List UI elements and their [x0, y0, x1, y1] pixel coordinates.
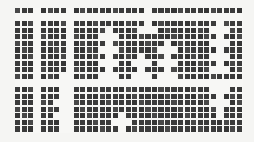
matrix-cell — [41, 28, 46, 33]
matrix-cell — [217, 8, 222, 13]
matrix-cell — [74, 100, 79, 105]
matrix-cell — [171, 34, 176, 39]
matrix-cell — [28, 41, 33, 46]
matrix-cell — [113, 28, 118, 33]
matrix-cell — [171, 100, 176, 105]
matrix-cell — [93, 8, 98, 13]
matrix-cell — [87, 94, 92, 99]
matrix-cell — [198, 34, 203, 39]
matrix-cell — [119, 74, 124, 79]
matrix-cell — [22, 100, 27, 105]
matrix-cell — [230, 94, 235, 99]
matrix-cell — [126, 67, 131, 72]
matrix-cell — [87, 113, 92, 118]
matrix-cell — [113, 54, 118, 59]
matrix-cell — [48, 8, 53, 13]
matrix-cell — [48, 120, 53, 125]
matrix-cell — [230, 100, 235, 105]
matrix-cell — [211, 21, 216, 26]
matrix-cell — [126, 41, 131, 46]
matrix-cell — [61, 34, 66, 39]
matrix-cell — [204, 94, 209, 99]
matrix-cell — [54, 28, 59, 33]
matrix-cell — [87, 100, 92, 105]
matrix-cell — [28, 100, 33, 105]
matrix-cell — [165, 87, 170, 92]
matrix-cell — [113, 100, 118, 105]
matrix-cell — [87, 107, 92, 112]
matrix-cell — [178, 126, 183, 131]
matrix-cell — [185, 61, 190, 66]
matrix-cell — [106, 21, 111, 26]
matrix-cell — [87, 34, 92, 39]
matrix-cell — [165, 120, 170, 125]
matrix-cell — [15, 54, 20, 59]
matrix-cell — [15, 107, 20, 112]
matrix-cell — [113, 87, 118, 92]
matrix-cell — [145, 34, 150, 39]
matrix-cell — [158, 8, 163, 13]
matrix-cell — [15, 21, 20, 26]
matrix-cell — [165, 107, 170, 112]
matrix-cell — [54, 67, 59, 72]
matrix-cell — [106, 126, 111, 131]
matrix-cell — [230, 54, 235, 59]
matrix-cell — [87, 61, 92, 66]
matrix-cell — [211, 126, 216, 131]
matrix-cell — [204, 34, 209, 39]
matrix-cell — [158, 67, 163, 72]
matrix-cell — [28, 61, 33, 66]
matrix-cell — [106, 87, 111, 92]
matrix-cell — [87, 67, 92, 72]
matrix-cell — [165, 113, 170, 118]
matrix-cell — [237, 107, 242, 112]
matrix-cell — [54, 21, 59, 26]
matrix-cell — [185, 8, 190, 13]
matrix-cell — [217, 120, 222, 125]
matrix-cell — [100, 21, 105, 26]
matrix-cell — [139, 47, 144, 52]
matrix-cell — [74, 41, 79, 46]
matrix-cell — [224, 107, 229, 112]
matrix-cell — [22, 126, 27, 131]
matrix-cell — [237, 74, 242, 79]
matrix-cell — [100, 113, 105, 118]
matrix-cell — [230, 74, 235, 79]
matrix-cell — [185, 120, 190, 125]
matrix-cell — [15, 113, 20, 118]
matrix-cell — [28, 8, 33, 13]
matrix-cell — [61, 28, 66, 33]
matrix-cell — [61, 21, 66, 26]
matrix-cell — [41, 67, 46, 72]
matrix-cell — [126, 87, 131, 92]
matrix-cell — [74, 8, 79, 13]
matrix-cell — [22, 47, 27, 52]
matrix-cell — [87, 74, 92, 79]
matrix-cell — [204, 21, 209, 26]
matrix-cell — [100, 54, 105, 59]
matrix-cell — [158, 21, 163, 26]
matrix-cell — [87, 120, 92, 125]
matrix-cell — [237, 28, 242, 33]
matrix-cell — [41, 126, 46, 131]
matrix-cell — [22, 113, 27, 118]
matrix-cell — [93, 100, 98, 105]
matrix-cell — [224, 8, 229, 13]
matrix-cell — [198, 54, 203, 59]
matrix-cell — [171, 120, 176, 125]
matrix-cell — [87, 47, 92, 52]
matrix-cell — [93, 54, 98, 59]
matrix-cell — [178, 107, 183, 112]
matrix-cell — [165, 94, 170, 99]
matrix-cell — [224, 120, 229, 125]
matrix-cell — [204, 41, 209, 46]
matrix-cell — [74, 120, 79, 125]
matrix-cell — [41, 87, 46, 92]
matrix-cell — [100, 126, 105, 131]
matrix-cell — [54, 107, 59, 112]
matrix-cell — [152, 47, 157, 52]
matrix-cell — [41, 94, 46, 99]
matrix-cell — [211, 94, 216, 99]
matrix-cell — [165, 8, 170, 13]
matrix-cell — [185, 47, 190, 52]
